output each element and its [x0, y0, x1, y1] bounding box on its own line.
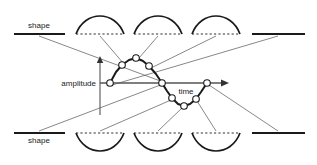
top-arc-1	[76, 16, 124, 34]
waveform-shape-diagram: shape shape amplitude time	[0, 0, 317, 165]
leader-line-top-arc-3	[151, 36, 216, 68]
leader-line-top-arc-2	[139, 36, 158, 58]
sample-marker	[107, 80, 114, 87]
sample-marker	[193, 96, 200, 103]
sample-marker	[204, 80, 211, 87]
top-arc-2	[134, 16, 182, 34]
bottom-arc-1	[76, 133, 124, 151]
sample-marker	[119, 62, 126, 69]
label-shape-top: shape	[28, 21, 50, 30]
bottom-arc-2	[134, 133, 182, 151]
leader-line-bottom-arc-1	[100, 100, 171, 131]
sample-marker	[181, 103, 188, 110]
time-axis-arrowhead	[221, 80, 229, 87]
top-shape-row	[14, 16, 305, 34]
leader-line-bottom-arc-2	[158, 108, 182, 131]
sample-marker	[146, 63, 153, 70]
label-time: time	[178, 87, 194, 96]
leader-line-bottom-flat-right	[209, 85, 278, 131]
sample-marker	[169, 95, 176, 102]
sample-marker	[133, 55, 140, 62]
leader-line-bottom-flat-left	[39, 84, 163, 131]
label-shape-bottom: shape	[28, 136, 50, 145]
amplitude-axis	[97, 56, 103, 115]
diagram-canvas: shape shape amplitude time	[0, 0, 317, 165]
label-amplitude: amplitude	[61, 79, 96, 88]
bottom-shape-row	[14, 133, 305, 151]
bottom-arc-3	[192, 133, 240, 151]
sample-marker	[159, 80, 166, 87]
leader-line-bottom-arc-3	[197, 101, 216, 131]
top-arc-3	[192, 16, 240, 34]
